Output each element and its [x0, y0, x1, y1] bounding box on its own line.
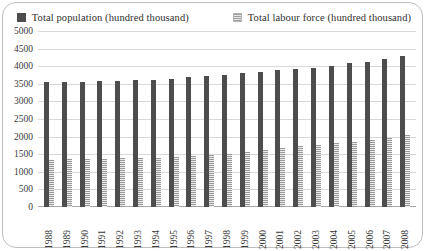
bar-labour-force: [102, 159, 107, 207]
bar-group: [325, 31, 343, 207]
legend-item-population: Total population (hundred thousand): [17, 12, 189, 23]
bar-labour-force: [138, 158, 143, 207]
x-axis-tick-label: 2008: [396, 209, 414, 249]
bar-labour-force: [280, 148, 285, 207]
bar-labour-force: [387, 138, 392, 207]
x-axis-tick-label: 1999: [236, 209, 254, 249]
x-axis-tick-label: 1995: [165, 209, 183, 249]
bar-labour-force: [298, 146, 303, 207]
x-axis-tick-label: 1991: [93, 209, 111, 249]
bar-labour-force: [120, 158, 125, 207]
bar-group: [343, 31, 361, 207]
legend-label-population: Total population (hundred thousand): [32, 12, 189, 23]
x-axis-tick-label: 1989: [58, 209, 76, 249]
bar-labour-force: [352, 142, 357, 207]
bar-group: [289, 31, 307, 207]
bar-group: [76, 31, 94, 207]
y-axis-tick-label: 3500: [14, 79, 33, 89]
x-axis-tick-label: 1998: [218, 209, 236, 249]
bar-group: [218, 31, 236, 207]
x-axis-tick-label: 2003: [307, 209, 325, 249]
bar-labour-force: [85, 159, 90, 207]
y-axis-tick-label: 4500: [14, 44, 33, 54]
bar-group: [165, 31, 183, 207]
x-axis-tick-label: 2000: [254, 209, 272, 249]
x-axis-tick-label: 2007: [378, 209, 396, 249]
bar-group: [236, 31, 254, 207]
x-axis-labels: 1988198919901991199219931994199519961997…: [38, 209, 416, 249]
legend-swatch-labour-icon: [233, 13, 242, 22]
bar-labour-force: [245, 152, 250, 207]
bar-labour-force: [316, 145, 321, 207]
x-axis-tick-label: 2005: [343, 209, 361, 249]
x-axis-tick-label: 1990: [76, 209, 94, 249]
bar-labour-force: [209, 155, 214, 207]
bar-group: [40, 31, 58, 207]
bar-labour-force: [156, 158, 161, 207]
bar-group: [93, 31, 111, 207]
y-axis-tick-label: 3000: [14, 96, 33, 106]
chart-container: Total population (hundred thousand) Tota…: [0, 0, 428, 251]
bar-labour-force: [174, 157, 179, 207]
bar-group: [396, 31, 414, 207]
legend-label-labour: Total labour force (hundred thousand): [248, 12, 411, 23]
bar-labour-force: [191, 156, 196, 207]
bar-labour-force: [263, 150, 268, 207]
y-axis-tick-label: 2000: [14, 132, 33, 142]
y-axis-tick-label: 1000: [14, 167, 33, 177]
x-axis-tick-label: 2002: [289, 209, 307, 249]
x-axis-tick-label: 2006: [361, 209, 379, 249]
bar-group: [200, 31, 218, 207]
y-axis-tick-label: 500: [19, 184, 33, 194]
bar-labour-force: [49, 160, 54, 207]
x-axis-tick-label: 1988: [40, 209, 58, 249]
bar-labour-force: [405, 135, 410, 207]
y-axis-tick-label: 0: [28, 202, 33, 212]
y-axis-tick-label: 4000: [14, 61, 33, 71]
bar-group: [254, 31, 272, 207]
bar-labour-force: [370, 140, 375, 207]
bar-group: [129, 31, 147, 207]
x-axis-tick-label: 1997: [200, 209, 218, 249]
bar-labour-force: [67, 159, 72, 207]
bar-group: [307, 31, 325, 207]
bar-labour-force: [334, 143, 339, 207]
y-axis-tick-label: 2500: [14, 114, 33, 124]
y-axis-tick-label: 1500: [14, 149, 33, 159]
y-axis: 5000450040003500300025002000150010005000: [0, 31, 36, 207]
x-axis-tick-label: 1992: [111, 209, 129, 249]
bar-group: [147, 31, 165, 207]
legend-item-labour: Total labour force (hundred thousand): [233, 12, 411, 23]
plot-area: [38, 31, 416, 207]
x-axis-tick-label: 1993: [129, 209, 147, 249]
x-axis-tick-label: 2001: [272, 209, 290, 249]
x-axis-tick-label: 2004: [325, 209, 343, 249]
legend-swatch-population-icon: [17, 13, 26, 22]
bar-group: [272, 31, 290, 207]
x-axis-tick-label: 1994: [147, 209, 165, 249]
bar-group: [183, 31, 201, 207]
bar-group: [111, 31, 129, 207]
bar-groups: [38, 31, 416, 207]
y-axis-tick-label: 5000: [14, 26, 33, 36]
bar-group: [58, 31, 76, 207]
x-axis-tick-label: 1996: [183, 209, 201, 249]
bar-group: [378, 31, 396, 207]
chart-legend: Total population (hundred thousand) Tota…: [0, 7, 428, 27]
bar-group: [361, 31, 379, 207]
bar-labour-force: [227, 154, 232, 207]
